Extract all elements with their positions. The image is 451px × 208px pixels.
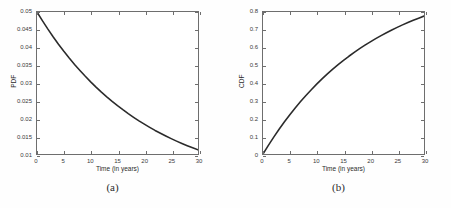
y-tick	[37, 138, 40, 139]
x-tick-label: 0	[34, 158, 37, 164]
x-tick-label: 0	[260, 158, 263, 164]
x-tick	[290, 151, 291, 154]
y-tick-right	[421, 12, 424, 13]
plot-area-a	[36, 11, 199, 155]
subfigure-caption-a: (a)	[0, 182, 225, 193]
cdf-curve-svg	[263, 12, 424, 154]
y-tick-label: 0.7	[226, 26, 258, 32]
y-tick-label: 0	[226, 152, 258, 158]
x-tick-top	[146, 12, 147, 15]
y-tick-right	[421, 120, 424, 121]
y-tick-right	[421, 48, 424, 49]
x-tick-label: 5	[61, 158, 64, 164]
y-tick-right	[195, 12, 198, 13]
y-tick	[37, 66, 40, 67]
x-tick-label: 30	[422, 158, 429, 164]
plot-area-b	[262, 11, 425, 155]
y-tick	[37, 48, 40, 49]
x-tick-label: 20	[367, 158, 374, 164]
x-tick-label: 15	[114, 158, 121, 164]
figure-container: 051015202530 0.010.0150.020.0250.030.035…	[0, 0, 451, 208]
y-tick-label: 0.8	[226, 8, 258, 14]
x-tick-label: 15	[340, 158, 347, 164]
y-tick-label: 0.015	[0, 134, 32, 140]
x-tick	[119, 151, 120, 154]
y-tick	[37, 120, 40, 121]
y-tick	[37, 84, 40, 85]
x-tick	[64, 151, 65, 154]
y-tick-label: 0.05	[0, 8, 32, 14]
x-tick-top	[64, 12, 65, 15]
x-tick	[173, 151, 174, 154]
pdf-curve	[37, 12, 198, 150]
y-tick	[263, 30, 266, 31]
x-tick-top	[290, 12, 291, 15]
y-tick	[37, 156, 40, 157]
y-tick-label: 0.01	[0, 152, 32, 158]
y-tick	[37, 30, 40, 31]
y-tick-right	[195, 156, 198, 157]
x-tick-label: 10	[87, 158, 94, 164]
y-tick	[263, 138, 266, 139]
x-tick-top	[345, 12, 346, 15]
y-tick	[263, 12, 266, 13]
x-tick	[200, 151, 201, 154]
x-tick-label: 25	[168, 158, 175, 164]
pdf-curve-svg	[37, 12, 198, 154]
y-tick-right	[421, 66, 424, 67]
y-axis-title-b: CDF	[239, 61, 246, 101]
x-tick-top	[426, 12, 427, 15]
x-tick-label: 5	[287, 158, 290, 164]
y-tick-label: 0.045	[0, 26, 32, 32]
x-tick-top	[317, 12, 318, 15]
x-tick-label: 25	[394, 158, 401, 164]
x-tick	[263, 151, 264, 154]
y-tick-right	[195, 102, 198, 103]
x-tick	[91, 151, 92, 154]
x-tick	[399, 151, 400, 154]
y-tick	[37, 102, 40, 103]
x-axis-title-a: Time (in years)	[36, 166, 199, 173]
chart-panel-b: 051015202530 00.10.20.30.40.50.60.70.8 T…	[226, 0, 451, 208]
y-tick	[263, 66, 266, 67]
subfigure-caption-b: (b)	[226, 182, 451, 193]
x-tick-top	[200, 12, 201, 15]
y-tick-right	[195, 120, 198, 121]
x-tick-label: 30	[196, 158, 203, 164]
x-tick-label: 20	[141, 158, 148, 164]
y-tick-label: 0.2	[226, 116, 258, 122]
y-tick	[263, 156, 266, 157]
cdf-curve	[263, 16, 424, 154]
y-tick-right	[195, 84, 198, 85]
x-tick-label: 10	[313, 158, 320, 164]
y-tick	[263, 48, 266, 49]
y-tick-right	[195, 138, 198, 139]
y-tick	[263, 102, 266, 103]
y-tick-right	[421, 84, 424, 85]
x-axis-title-b: Time (in years)	[262, 166, 425, 173]
y-tick-label: 0.6	[226, 44, 258, 50]
x-tick	[317, 151, 318, 154]
x-tick	[37, 151, 38, 154]
y-tick-right	[421, 30, 424, 31]
y-tick-label: 0.1	[226, 134, 258, 140]
x-tick-top	[173, 12, 174, 15]
y-tick-right	[421, 156, 424, 157]
chart-panel-a: 051015202530 0.010.0150.020.0250.030.035…	[0, 0, 225, 208]
x-tick	[345, 151, 346, 154]
y-tick-right	[195, 48, 198, 49]
x-tick	[426, 151, 427, 154]
x-tick-top	[91, 12, 92, 15]
x-tick-top	[399, 12, 400, 15]
y-tick	[263, 120, 266, 121]
y-tick-right	[421, 138, 424, 139]
y-tick-label: 0.04	[0, 44, 32, 50]
x-tick	[146, 151, 147, 154]
x-tick-top	[372, 12, 373, 15]
y-tick-label: 0.02	[0, 116, 32, 122]
y-tick-right	[421, 102, 424, 103]
y-tick	[37, 12, 40, 13]
x-tick	[372, 151, 373, 154]
y-axis-title-a: PDF	[11, 61, 18, 101]
x-tick-top	[119, 12, 120, 15]
